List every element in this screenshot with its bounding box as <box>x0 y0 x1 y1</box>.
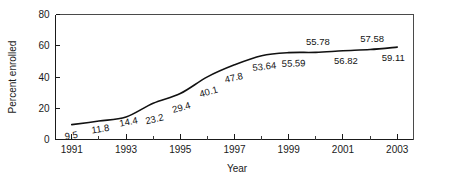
y-tick-label: 40 <box>38 72 50 83</box>
data-point-label: 55.59 <box>282 57 306 69</box>
x-tick-label: 1997 <box>223 144 246 155</box>
data-point-label: 59.11 <box>382 52 405 63</box>
x-tick-label: 1999 <box>278 144 301 155</box>
y-tick-label: 0 <box>44 134 50 145</box>
line-chart: 1991199319951997199920012003 020406080 9… <box>0 0 474 177</box>
data-point-label: 9.5 <box>64 129 79 142</box>
x-tick-label: 2001 <box>332 144 355 155</box>
x-tick-label: 2003 <box>386 144 409 155</box>
data-point-label: 57.58 <box>360 33 384 44</box>
y-axis-title: Percent enrolled <box>7 41 18 114</box>
x-tick-label: 1993 <box>115 144 138 155</box>
x-axis-title: Year <box>227 163 248 174</box>
y-tick-label: 20 <box>38 103 50 114</box>
data-point-label: 56.82 <box>334 55 358 66</box>
chart-container: 1991199319951997199920012003 020406080 9… <box>0 0 474 177</box>
y-tick-label: 80 <box>38 9 50 20</box>
x-tick-label: 1991 <box>61 144 84 155</box>
y-tick-label: 60 <box>38 40 50 51</box>
x-tick-label: 1995 <box>169 144 192 155</box>
data-point-label: 55.78 <box>306 36 330 47</box>
